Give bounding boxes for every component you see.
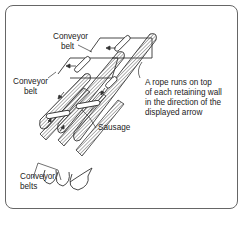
label-line: belt bbox=[47, 42, 88, 52]
label-line: Conveyor bbox=[13, 77, 48, 87]
label-rope-note: A rope runs on top of each retaining wal… bbox=[145, 78, 222, 118]
label-line: Conveyor bbox=[20, 172, 55, 182]
label-line: Conveyor bbox=[53, 32, 88, 42]
label-line: of each retaining wall bbox=[145, 88, 222, 98]
label-line: belt bbox=[13, 87, 48, 97]
label-line: displayed arrow bbox=[145, 108, 222, 118]
label-conveyor-belt-left: Conveyor belt bbox=[13, 77, 48, 97]
label-conveyor-belt-top: Conveyor belt bbox=[53, 32, 88, 52]
label-conveyor-belts-bottom: Conveyor belts bbox=[20, 172, 55, 192]
label-line: belts bbox=[20, 182, 55, 192]
label-line: in the direction of the bbox=[145, 98, 222, 108]
label-sausage: Sausage bbox=[98, 123, 130, 133]
label-line: A rope runs on top bbox=[145, 78, 222, 88]
